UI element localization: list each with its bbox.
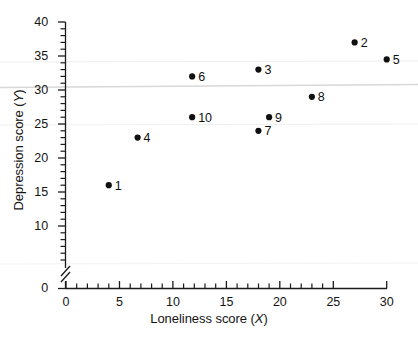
x-axis-title-text: Loneliness score ( [150,311,255,326]
y-axis-title-paren: ) [11,89,26,93]
data-point-marker [189,114,195,120]
x-axis [66,281,388,289]
data-point-label-3: 3 [264,63,271,77]
x-tick-label-10: 10 [166,295,180,309]
data-point-marker [255,67,261,73]
x-axis-title-paren: ) [263,311,267,326]
data-point-label-8: 8 [318,90,325,104]
data-point-label-5: 5 [393,53,400,67]
data-point-label-7: 7 [264,124,271,138]
data-point-marker [309,94,315,100]
scan-artifact-lines [0,61,418,264]
x-minor-ticks [77,284,323,289]
x-tick-label-25: 25 [326,295,340,309]
data-point-label-10: 10 [198,111,212,125]
data-point-marker [266,114,272,120]
x-tick-label-30: 30 [380,295,394,309]
data-point-marker [106,182,112,188]
data-point-label-9: 9 [275,111,282,125]
y-tick-label-10: 10 [14,219,48,233]
data-point-label-1: 1 [115,179,122,193]
y-minor-ticks [61,29,66,260]
data-point-marker [189,73,195,79]
x-axis-title: Loneliness score (X) [150,311,268,326]
x-tick-label-15: 15 [220,295,234,309]
y-axis-title: Depression score (Y) [11,89,26,210]
y-axis-title-text: Depression score ( [11,102,26,210]
x-major-ticks [66,281,387,289]
y-tick-label-35: 35 [14,49,48,63]
data-point-marker [135,135,141,141]
x-tick-label-20: 20 [273,295,287,309]
data-point-label-4: 4 [144,131,151,145]
data-point-marker [352,39,358,45]
data-point-marker [255,128,261,134]
scatter-plot-figure: 40 35 30 25 20 15 10 0 0 5 10 15 20 25 3… [0,0,418,344]
x-axis-variable: X [255,311,264,326]
plot-canvas [0,0,418,344]
y-tick-label-0: 0 [14,281,48,295]
data-point-label-6: 6 [198,70,205,84]
data-point-marker [384,56,390,62]
data-point-label-2: 2 [361,36,368,50]
y-axis-variable: Y [11,94,26,103]
x-tick-label-0: 0 [63,295,70,309]
x-tick-label-5: 5 [116,295,123,309]
y-tick-label-40: 40 [14,15,48,29]
y-axis-break-icon [61,266,70,282]
